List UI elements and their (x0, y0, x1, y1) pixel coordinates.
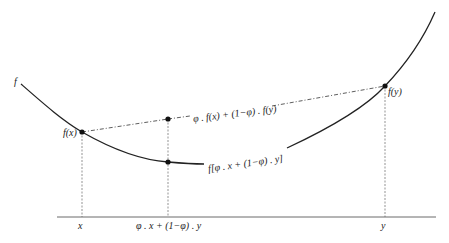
chord-line-mid (168, 116, 190, 119)
point-fx (79, 129, 84, 134)
point-chord (165, 116, 170, 121)
label-fy: f(y) (388, 86, 402, 97)
axis-label-mid: φ . x + (1−φ) . y (136, 220, 201, 231)
axis-label-x: x (78, 220, 82, 231)
curve-left (21, 84, 204, 164)
curve-right (287, 12, 435, 148)
diagram-canvas (0, 0, 449, 243)
convexity-diagram: f f(x) f(y) φ . f(x) + (1−φ) . f(y) f[φ … (0, 0, 449, 243)
label-fx: f(x) (63, 127, 77, 138)
curve-label: f (14, 76, 17, 87)
point-curve (165, 159, 170, 164)
point-fy (382, 83, 387, 88)
axis-label-y: y (381, 220, 385, 231)
